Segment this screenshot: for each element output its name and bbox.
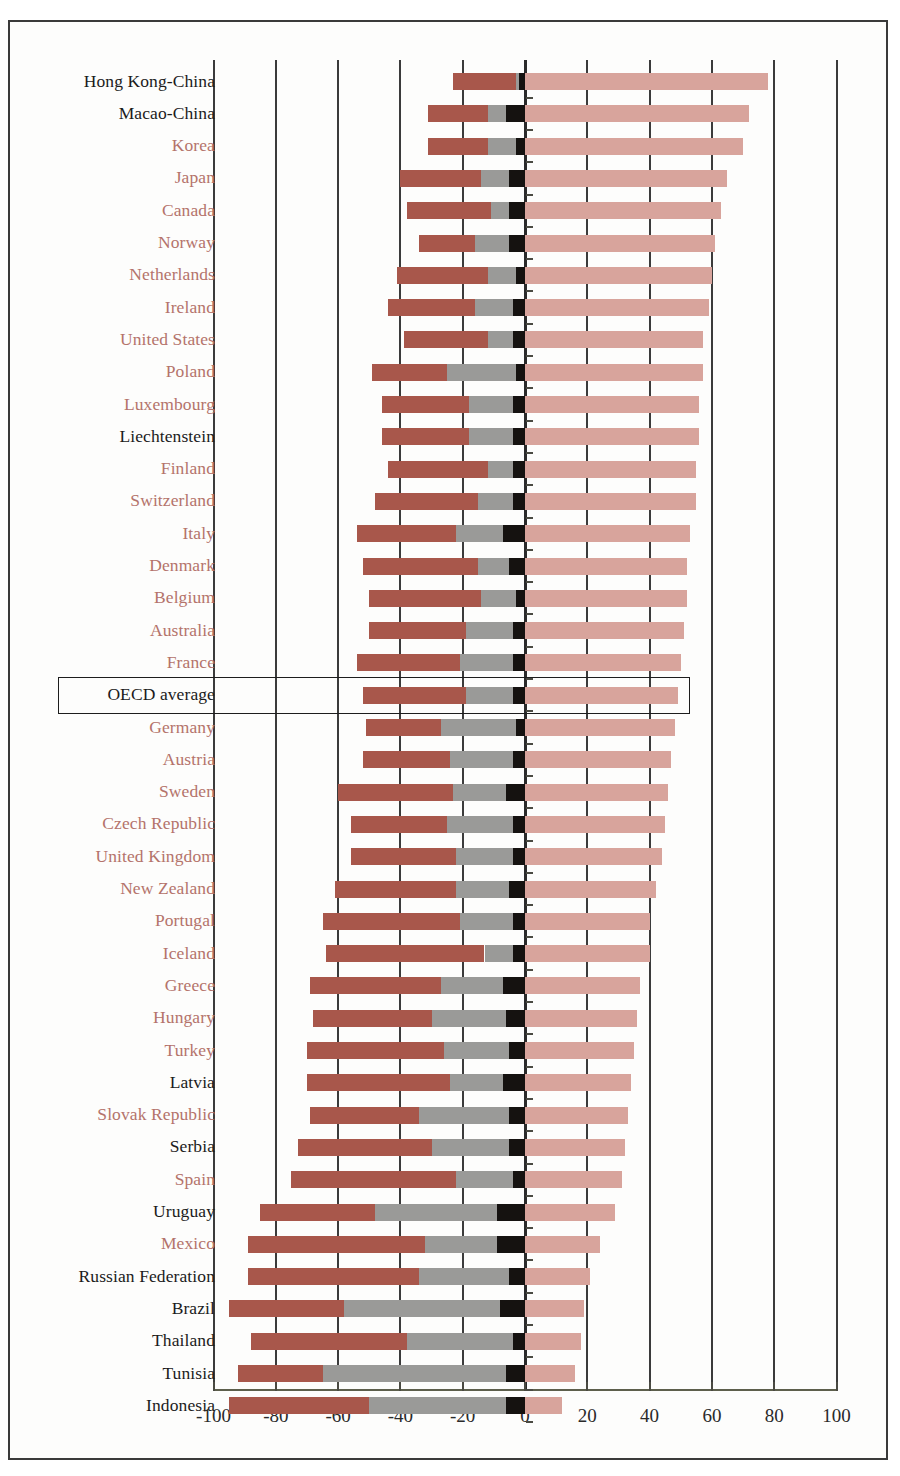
bar-segment-gray [441, 977, 503, 994]
category-label: United Kingdom [20, 848, 215, 866]
bar-segment-pink [525, 816, 665, 833]
minor-tick [526, 452, 533, 454]
bar-segment-gray [369, 1397, 506, 1414]
bar-segment-gray [447, 364, 516, 381]
bar-segment-black [513, 396, 525, 413]
gridline--80 [275, 60, 277, 1389]
minor-tick [526, 1033, 533, 1035]
category-label: Netherlands [20, 267, 215, 285]
minor-tick [526, 290, 533, 292]
minor-tick [526, 904, 533, 906]
bar-segment-dark-red [248, 1236, 426, 1253]
bar-segment-dark-red [238, 1365, 322, 1382]
bar-segment-gray [488, 105, 507, 122]
minor-tick [526, 194, 533, 196]
bar-segment-pink [525, 331, 703, 348]
category-label: Turkey [20, 1042, 215, 1060]
bar-segment-black [506, 105, 525, 122]
category-label: Austria [20, 751, 215, 769]
bar-segment-gray [407, 1333, 513, 1350]
bar-segment-black [506, 1010, 525, 1027]
bar-segment-pink [525, 848, 662, 865]
minor-tick [526, 420, 533, 422]
category-label: Tunisia [20, 1365, 215, 1383]
bar-segment-gray [491, 202, 510, 219]
bar-segment-gray [450, 751, 512, 768]
bar-segment-black [503, 1074, 525, 1091]
category-label: Latvia [20, 1074, 215, 1092]
bar-segment-pink [525, 235, 715, 252]
bar-segment-gray [475, 235, 509, 252]
minor-tick [526, 258, 533, 260]
bar-segment-black [506, 784, 525, 801]
bar-segment-black [509, 170, 525, 187]
category-label: Macao-China [20, 105, 215, 123]
bar-segment-black [516, 267, 525, 284]
bar-segment-black [513, 461, 525, 478]
bar-segment-gray [425, 1236, 497, 1253]
bar-segment-dark-red [323, 913, 460, 930]
bar-segment-dark-red [428, 105, 487, 122]
bar-segment-dark-red [351, 848, 457, 865]
bar-segment-dark-red [313, 1010, 431, 1027]
category-label: Uruguay [20, 1203, 215, 1221]
category-label: Iceland [20, 945, 215, 963]
bar-segment-pink [525, 1333, 581, 1350]
bar-segment-black [503, 525, 525, 542]
bar-segment-black [513, 848, 525, 865]
bar-segment-pink [525, 558, 687, 575]
bar-segment-black [513, 1171, 525, 1188]
category-label: Norway [20, 234, 215, 252]
category-label: Brazil [20, 1300, 215, 1318]
category-label: Serbia [20, 1139, 215, 1157]
diverging-bar-chart: -100-80-60-40-20020406080100Hong Kong-Ch… [0, 0, 900, 1476]
minor-tick [526, 613, 533, 615]
bar-segment-pink [525, 913, 650, 930]
bar-segment-dark-red [382, 428, 469, 445]
minor-tick [526, 484, 533, 486]
bar-segment-pink [525, 299, 709, 316]
category-label: Greece [20, 977, 215, 995]
bar-segment-dark-red [407, 202, 491, 219]
bar-segment-dark-red [363, 751, 450, 768]
minor-tick [526, 1066, 533, 1068]
x-axis-tick-40 [649, 1382, 651, 1391]
bar-segment-pink [525, 1074, 631, 1091]
minor-tick [526, 1098, 533, 1100]
minor-tick [526, 517, 533, 519]
x-axis-tick-60 [711, 1382, 713, 1391]
bar-segment-dark-red [229, 1397, 369, 1414]
x-axis-tick-20 [586, 1382, 588, 1391]
bar-segment-pink [525, 784, 668, 801]
minor-tick [526, 97, 533, 99]
category-label: Denmark [20, 557, 215, 575]
minor-tick [526, 1163, 533, 1165]
bar-segment-black [516, 719, 525, 736]
bar-segment-black [506, 1397, 525, 1414]
bar-segment-pink [525, 751, 671, 768]
category-label: Portugal [20, 913, 215, 931]
minor-tick [526, 323, 533, 325]
bar-segment-dark-red [366, 719, 441, 736]
bar-segment-dark-red [404, 331, 488, 348]
bar-segment-black [500, 1300, 525, 1317]
bar-segment-dark-red [419, 235, 475, 252]
x-axis-tick-label-40: 40 [640, 1405, 659, 1427]
bar-segment-pink [525, 525, 690, 542]
bar-segment-black [509, 1042, 525, 1059]
bar-segment-dark-red [248, 1268, 419, 1285]
bar-segment-dark-red [357, 654, 460, 671]
bar-segment-gray [432, 1010, 507, 1027]
bar-segment-dark-red [291, 1171, 456, 1188]
bar-segment-pink [525, 1171, 622, 1188]
bar-segment-black [513, 622, 525, 639]
bar-segment-gray [456, 1171, 512, 1188]
bar-segment-gray [456, 525, 503, 542]
minor-tick [526, 840, 533, 842]
bar-segment-dark-red [363, 558, 478, 575]
category-label: Thailand [20, 1332, 215, 1350]
category-label: Liechtenstein [20, 428, 215, 446]
bar-segment-black [509, 1107, 525, 1124]
bar-segment-pink [525, 396, 699, 413]
bar-segment-pink [525, 267, 712, 284]
